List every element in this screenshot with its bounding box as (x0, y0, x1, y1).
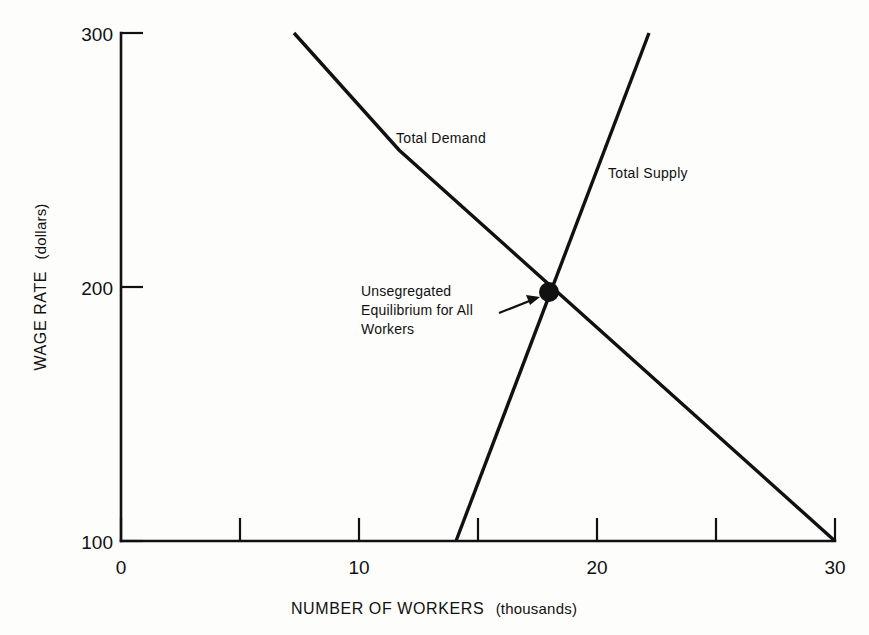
y-axis-ticks (121, 33, 143, 541)
x-tick-label-20: 20 (586, 557, 607, 578)
svg-text:WAGE RATE (dollars): WAGE RATE (dollars) (32, 203, 49, 370)
y-axis-title-unit: (dollars) (32, 203, 49, 259)
x-tick-label-0: 0 (116, 557, 127, 578)
annotation-line-3: Workers (361, 321, 414, 337)
x-tick-label-30: 30 (824, 557, 845, 578)
economics-supply-demand-chart: 300 200 100 0 10 20 30 NUMBER OF WORKERS… (0, 0, 869, 635)
y-axis-title: WAGE RATE (dollars) (32, 203, 49, 370)
chart-container: 300 200 100 0 10 20 30 NUMBER OF WORKERS… (0, 0, 869, 635)
x-axis-title-unit: (thousands) (496, 600, 577, 617)
x-axis-title-main: NUMBER OF WORKERS (291, 600, 484, 617)
y-tick-label-200: 200 (81, 278, 113, 299)
y-tick-label-100: 100 (81, 532, 113, 553)
equilibrium-annotation-arrow (499, 295, 540, 313)
equilibrium-annotation-text: Unsegregated Equilibrium for All Workers (361, 283, 473, 337)
series-label-total-demand: Total Demand (396, 130, 486, 146)
equilibrium-point-marker (539, 282, 559, 302)
annotation-line-1: Unsegregated (361, 283, 451, 299)
y-tick-label-300: 300 (81, 24, 113, 45)
svg-text:NUMBER OF WORKERS (tho: NUMBER OF WORKERS (thousands) (291, 600, 577, 617)
x-axis-ticks (121, 518, 835, 541)
y-axis-title-main: WAGE RATE (32, 271, 49, 371)
annotation-line-2: Equilibrium for All (361, 302, 473, 318)
x-tick-label-10: 10 (348, 557, 369, 578)
x-axis-title: NUMBER OF WORKERS (thousands) (291, 600, 577, 617)
series-label-total-supply: Total Supply (608, 165, 688, 181)
